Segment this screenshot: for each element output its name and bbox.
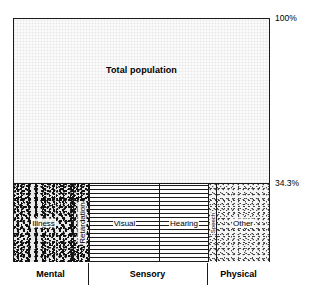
group-label-physical: Physical [207,269,270,279]
segment-speech-label: Speech [210,212,216,234]
segment-speech: Speech [208,184,216,262]
segment-illness: Illness [14,184,73,262]
segment-retardation: Retardation [73,184,89,262]
group-label-row: Mental Sensory Physical [13,263,270,287]
axis-tick-100: 100% [275,13,297,23]
mosaic-chart: Total population Illness Retardation Vis… [0,0,319,300]
segment-row: Illness Retardation Visual Hearing [14,184,269,262]
segment-other-label: Other [217,219,269,228]
group-label-sensory: Sensory [88,269,207,279]
segment-hearing-label: Hearing [160,219,208,228]
segment-visual: Visual [89,184,159,262]
segment-other: Other [216,184,269,262]
segment-visual-label: Visual [90,219,159,228]
segment-retardation-label: Retardation [77,201,86,244]
segment-hearing: Hearing [159,184,208,262]
total-population-block: Total population [14,19,269,184]
total-population-label: Total population [14,65,269,75]
axis-tick-34-3: 34.3% [275,178,299,188]
group-label-mental: Mental [13,269,88,279]
plot-frame: Total population Illness Retardation Vis… [13,18,270,262]
segment-illness-label: Illness [14,219,73,228]
